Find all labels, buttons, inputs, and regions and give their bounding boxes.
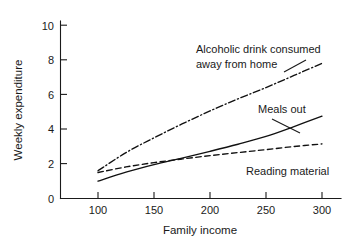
series-line-alcoholic-drink: [98, 63, 322, 170]
x-tick-label-300: 300: [313, 204, 331, 216]
line-chart: 10 8 6 4 2 0 100 150 200 250 300 Family …: [0, 0, 358, 249]
y-axis-title: Weekly expenditure: [12, 60, 24, 161]
x-tick-label-200: 200: [201, 204, 219, 216]
leader-line-alcoholic-drink: [284, 60, 306, 72]
annotation-meals-out: Meals out: [258, 103, 306, 115]
y-tick-label-8: 8: [48, 54, 54, 66]
y-tick-label-2: 2: [48, 158, 54, 170]
annotation-alcoholic-drink-line1: Alcoholic drink consumed: [196, 43, 321, 55]
y-tick-label-6: 6: [48, 89, 54, 101]
x-tick-label-250: 250: [257, 204, 275, 216]
annotation-reading-material: Reading material: [246, 165, 329, 177]
x-tick-label-100: 100: [89, 204, 107, 216]
x-axis-title: Family income: [163, 224, 237, 236]
y-tick-label-10: 10: [42, 20, 54, 32]
y-tick-label-0: 0: [48, 193, 54, 205]
x-tick-label-150: 150: [145, 204, 163, 216]
chart-container: 10 8 6 4 2 0 100 150 200 250 300 Family …: [0, 0, 358, 249]
y-tick-label-4: 4: [48, 123, 54, 135]
annotation-alcoholic-drink-line2: away from home: [196, 58, 277, 70]
